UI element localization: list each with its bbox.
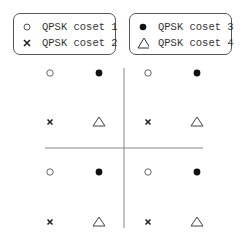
filled-circle-icon: [96, 169, 103, 176]
cross-icon: [146, 120, 151, 125]
cross-icon: [48, 220, 53, 225]
open-triangle-icon: [191, 217, 203, 226]
cross-icon: [48, 120, 53, 125]
filled-circle-icon: [194, 169, 201, 176]
open-circle-icon: [47, 169, 53, 175]
open-triangle-icon: [93, 117, 105, 126]
open-circle-icon: [145, 169, 151, 175]
open-circle-icon: [145, 70, 151, 76]
open-circle-icon: [47, 70, 53, 76]
filled-circle-icon: [194, 70, 201, 77]
filled-circle-icon: [96, 70, 103, 77]
constellation-plot: [0, 0, 243, 236]
open-triangle-icon: [93, 217, 105, 226]
open-triangle-icon: [191, 117, 203, 126]
cross-icon: [146, 220, 151, 225]
